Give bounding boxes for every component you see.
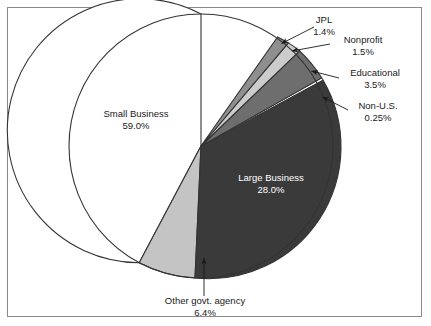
slice-label-educational: Educational 3.5% (341, 67, 409, 90)
slice-label-small-business: Small Business 59.0% (76, 108, 196, 131)
slice-label-large-business: Large Business 28.0% (212, 172, 330, 195)
slice-label-other-govt-agency: Other govt. agency 6.4% (138, 295, 272, 318)
leader-line-nonprofit (292, 44, 330, 51)
slice-label-small-business-value: 59.0% (76, 120, 196, 132)
slice-label-small-business-name: Small Business (76, 108, 196, 120)
slice-label-non-us-name: Non-U.S. (349, 100, 407, 112)
slice-label-nonprofit: Nonprofit 1.5% (333, 34, 393, 57)
slice-label-large-business-value: 28.0% (212, 184, 330, 196)
slice-label-non-us: Non-U.S. 0.25% (349, 100, 407, 123)
slice-label-jpl-name: JPL (300, 14, 348, 26)
slice-label-non-us-value: 0.25% (349, 112, 407, 124)
slice-label-other-govt-agency-value: 6.4% (138, 307, 272, 319)
slice-label-nonprofit-value: 1.5% (333, 46, 393, 58)
slice-label-educational-name: Educational (341, 67, 409, 79)
pie-chart-figure: Small Business 59.0% Large Business 28.0… (0, 0, 431, 326)
slice-label-large-business-name: Large Business (212, 172, 330, 184)
slice-label-other-govt-agency-name: Other govt. agency (138, 295, 272, 307)
slice-label-educational-value: 3.5% (341, 79, 409, 91)
slice-label-nonprofit-name: Nonprofit (333, 34, 393, 46)
